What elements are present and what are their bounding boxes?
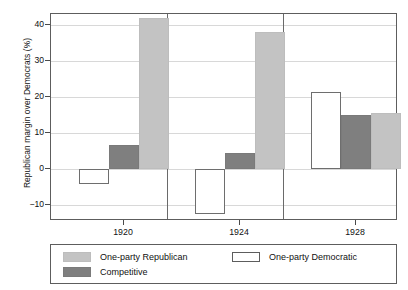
x-tick-label-1924: 1924 <box>209 227 269 237</box>
chart-legend: One-party Republican One-party Democrati… <box>50 244 397 284</box>
bar-1924-one-party-republican[interactable] <box>255 32 285 169</box>
x-tick-mark-1924 <box>239 220 240 225</box>
legend-label-competitive: Competitive <box>100 267 148 277</box>
y-tick-label-20: 20 <box>22 91 44 101</box>
bar-1920-one-party-democratic[interactable] <box>79 169 109 184</box>
bar-1924-competitive[interactable] <box>225 153 255 169</box>
bar-1928-one-party-democratic[interactable] <box>311 92 341 169</box>
legend-swatch-one-party-democratic <box>232 252 260 262</box>
x-tick-mark-1920 <box>123 220 124 225</box>
legend-swatch-competitive <box>63 267 91 277</box>
legend-label-one-party-democratic: One-party Democratic <box>269 252 357 262</box>
bar-1920-competitive[interactable] <box>109 145 139 169</box>
y-tick-label-10: 10 <box>22 127 44 137</box>
legend-item-one-party-democratic[interactable]: One-party Democratic <box>232 252 357 262</box>
bar-1924-one-party-democratic[interactable] <box>195 169 225 214</box>
x-tick-label-1928: 1928 <box>325 227 385 237</box>
y-axis-title: Republican margin over Democrats (%) <box>22 13 32 213</box>
bar-1928-competitive[interactable] <box>341 115 371 169</box>
y-tick-label-neg10: −10 <box>22 199 44 209</box>
plot-area <box>50 13 397 220</box>
legend-label-one-party-republican: One-party Republican <box>100 252 188 262</box>
gridline-20 <box>51 97 396 98</box>
bar-chart-figure: Republican margin over Democrats (%) 40 … <box>0 0 408 290</box>
y-tick-label-40: 40 <box>22 19 44 29</box>
bar-1928-one-party-republican[interactable] <box>371 113 401 169</box>
bar-1920-one-party-republican[interactable] <box>139 18 169 169</box>
x-tick-mark-1928 <box>355 220 356 225</box>
legend-item-competitive[interactable]: Competitive <box>63 267 148 277</box>
legend-swatch-one-party-republican <box>63 252 91 262</box>
legend-item-one-party-republican[interactable]: One-party Republican <box>63 252 188 262</box>
gridline-40 <box>51 25 396 26</box>
gridline-30 <box>51 61 396 62</box>
y-tick-label-30: 30 <box>22 55 44 65</box>
y-tick-label-0: 0 <box>22 163 44 173</box>
x-tick-label-1920: 1920 <box>93 227 153 237</box>
